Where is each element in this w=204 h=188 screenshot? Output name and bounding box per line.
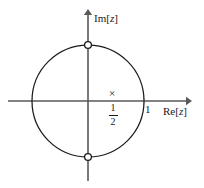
fraction-denominator: 2 bbox=[106, 117, 120, 128]
fraction-numerator: 1 bbox=[106, 103, 120, 114]
unit-real-tick-label: 1 bbox=[145, 104, 151, 115]
pole-value-fraction: 1 2 bbox=[106, 103, 120, 127]
real-axis-group bbox=[8, 97, 192, 105]
re-label-close-bracket: ] bbox=[183, 105, 187, 117]
pole-marker-x-icon: × bbox=[109, 88, 115, 99]
zero-marker-plus-i bbox=[85, 42, 92, 49]
im-label-prefix: Im bbox=[94, 12, 106, 24]
re-label-prefix: Re bbox=[163, 105, 175, 117]
real-axis-arrowhead bbox=[186, 97, 192, 105]
diagram-canvas bbox=[0, 0, 204, 188]
real-axis-label: Re[z] bbox=[163, 106, 187, 117]
complex-plane-diagram: Im[z] Re[z] 1 × 1 2 bbox=[0, 0, 204, 188]
imaginary-axis-label: Im[z] bbox=[94, 13, 118, 24]
imaginary-axis-arrowhead bbox=[84, 9, 92, 15]
im-label-close-bracket: ] bbox=[114, 12, 118, 24]
zero-marker-minus-i bbox=[85, 154, 92, 161]
